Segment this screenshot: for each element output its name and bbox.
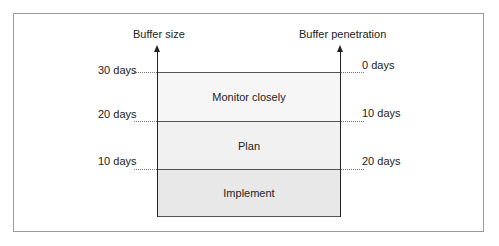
zone-label: Plan <box>238 140 260 152</box>
zone-implement: Implement <box>157 169 341 217</box>
left-tick-label: 10 days <box>98 155 137 167</box>
zone-monitor-closely: Monitor closely <box>157 72 341 121</box>
right-axis-line <box>340 50 341 217</box>
zone-label: Monitor closely <box>212 91 285 103</box>
right-tick-leader <box>341 72 364 73</box>
right-tick-label: 20 days <box>362 155 401 167</box>
left-axis-arrow-icon <box>154 45 160 52</box>
left-tick-leader <box>134 121 157 122</box>
left-tick-leader <box>134 169 157 170</box>
right-tick-leader <box>341 169 364 170</box>
left-axis-title: Buffer size <box>133 28 185 40</box>
right-tick-label: 0 days <box>362 59 394 71</box>
right-axis-arrow-icon <box>337 45 343 52</box>
left-tick-label: 20 days <box>98 108 137 120</box>
right-tick-leader <box>341 121 364 122</box>
zone-plan: Plan <box>157 121 341 169</box>
right-tick-label: 10 days <box>362 107 401 119</box>
zone-label: Implement <box>223 187 274 199</box>
left-axis-line <box>157 50 158 217</box>
right-axis-title: Buffer penetration <box>299 28 386 40</box>
left-tick-leader <box>134 72 157 73</box>
left-tick-label: 30 days <box>98 64 137 76</box>
